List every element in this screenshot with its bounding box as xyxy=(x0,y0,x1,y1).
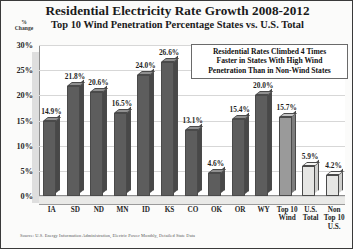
x-axis-tick-label-line: SD xyxy=(62,206,88,214)
bar[interactable]: 21.8% xyxy=(67,86,84,196)
x-axis-tick-label-line: OR xyxy=(227,206,253,214)
y-axis-tick-label: 15% xyxy=(16,116,33,125)
bar-value-label: 20.0% xyxy=(253,81,273,90)
x-axis-tick-label-line: U.S. xyxy=(321,223,347,231)
bar-front-face xyxy=(326,175,339,196)
bar-value-label: 20.6% xyxy=(88,78,108,87)
y-axis-title: % Change xyxy=(7,19,41,32)
x-axis-tick-label: ID xyxy=(133,206,159,214)
bar-side-face xyxy=(150,69,154,193)
annotation-line-1: Residential Rates Climbed 4 Times xyxy=(195,47,344,56)
bar-front-face xyxy=(43,121,56,196)
bar[interactable]: 14.9% xyxy=(43,121,60,196)
plot-side-wall xyxy=(32,52,39,203)
x-axis-tick-label: IA xyxy=(39,206,65,214)
y-axis-tick-label: 20% xyxy=(16,91,33,100)
bar-value-label: 13.1% xyxy=(182,116,202,125)
bar-front-face xyxy=(185,130,198,196)
x-axis-tick-label-line: IA xyxy=(39,206,65,214)
y-axis-tick-label: 5% xyxy=(21,166,33,175)
page-title: Residential Electricity Rate Growth 2008… xyxy=(1,4,353,18)
bar-value-label: 21.8% xyxy=(65,72,85,81)
bar-front-face xyxy=(114,113,127,196)
x-axis-tick-label: U.S.Total xyxy=(298,206,324,223)
x-axis-tick-label-line: Non xyxy=(321,206,347,214)
bar[interactable]: 24.0% xyxy=(137,75,154,196)
x-axis-tick-label: CO xyxy=(180,206,206,214)
bar-front-face xyxy=(255,95,268,196)
bar-front-face xyxy=(90,92,103,196)
plot-floor xyxy=(39,196,345,205)
y-axis-tick-label: 10% xyxy=(16,141,33,150)
x-axis-tick-label: SD xyxy=(62,206,88,214)
bar-side-face xyxy=(80,80,84,193)
bar-front-face xyxy=(67,86,80,196)
bar-value-label: 15.7% xyxy=(277,103,297,112)
bar-side-face xyxy=(103,86,107,193)
bar-value-label: 4.2% xyxy=(325,161,342,170)
bar-side-face xyxy=(245,112,249,193)
y-axis-tick-label: 25% xyxy=(16,66,33,75)
bar-front-face xyxy=(161,62,174,196)
bar-value-label: 16.5% xyxy=(112,99,132,108)
bar-side-face xyxy=(198,124,202,193)
annotation-line-2: Faster in States With High Wind xyxy=(195,56,344,65)
bar[interactable]: 15.7% xyxy=(279,117,296,196)
x-axis-tick-label-line: Wind xyxy=(274,214,300,222)
x-axis-tick-label: WY xyxy=(251,206,277,214)
bar[interactable]: 26.6% xyxy=(161,62,178,196)
bar-value-label: 14.9% xyxy=(41,107,61,116)
x-axis-tick-label: MN xyxy=(109,206,135,214)
bar-value-label: 4.6% xyxy=(208,159,225,168)
x-axis-tick-label-line: WY xyxy=(251,206,277,214)
bar-side-face xyxy=(292,111,296,193)
bar-front-face xyxy=(208,173,221,196)
title-block: Residential Electricity Rate Growth 2008… xyxy=(1,4,353,31)
annotation-line-3: Penetration Than in Non-Wind States xyxy=(195,66,344,75)
x-axis-tick-label-line: CO xyxy=(180,206,206,214)
x-axis-tick-label-line: Top 10 xyxy=(321,214,347,222)
y-axis-title-line2: Change xyxy=(7,25,41,31)
chart-subtitle: Top 10 Wind Penetration Percentage State… xyxy=(1,19,353,31)
bar-value-label: 24.0% xyxy=(135,61,155,70)
bar-side-face xyxy=(268,89,272,193)
bar[interactable]: 13.1% xyxy=(185,130,202,196)
bar[interactable]: 15.4% xyxy=(232,119,249,197)
chart-figure: Residential Electricity Rate Growth 2008… xyxy=(0,0,353,249)
x-axis-tick-label-line: ID xyxy=(133,206,159,214)
bar[interactable]: 4.2% xyxy=(326,175,343,196)
bar-side-face xyxy=(174,56,178,193)
bar-front-face xyxy=(279,117,292,196)
x-axis-tick-label: KS xyxy=(156,206,182,214)
gridline xyxy=(39,196,345,197)
x-axis-tick-label-line: OK xyxy=(204,206,230,214)
bar[interactable]: 4.6% xyxy=(208,173,225,196)
bar[interactable]: 20.0% xyxy=(255,95,272,196)
bar[interactable]: 5.9% xyxy=(302,166,319,196)
x-axis-tick-label-line: U.S. xyxy=(298,206,324,214)
annotation-callout: Residential Rates Climbed 4 Times Faster… xyxy=(191,44,348,79)
source-note: Source: U.S. Energy Information Administ… xyxy=(20,233,195,238)
bar-value-label: 5.9% xyxy=(302,152,319,161)
bar-front-face xyxy=(137,75,150,196)
x-axis-tick-label: ND xyxy=(86,206,112,214)
x-axis-tick-label-line: MN xyxy=(109,206,135,214)
bar-side-face xyxy=(56,115,60,193)
bar-value-label: 26.6% xyxy=(159,48,179,57)
x-axis-tick-label: NonTop 10U.S. xyxy=(321,206,347,231)
x-axis-tick-label-line: ND xyxy=(86,206,112,214)
x-axis-tick-label-line: Total xyxy=(298,214,324,222)
bar-front-face xyxy=(232,119,245,197)
x-axis-tick-label: OR xyxy=(227,206,253,214)
bar-value-label: 15.4% xyxy=(230,105,250,114)
bar[interactable]: 20.6% xyxy=(90,92,107,196)
y-axis-tick-label: 0% xyxy=(21,192,33,201)
x-axis-tick-label: OK xyxy=(204,206,230,214)
bar-front-face xyxy=(302,166,315,196)
x-axis-tick-label-line: KS xyxy=(156,206,182,214)
y-axis-tick-label: 30% xyxy=(16,41,33,50)
x-axis-tick-label: Top 10Wind xyxy=(274,206,300,223)
x-axis-tick-label-line: Top 10 xyxy=(274,206,300,214)
bar-side-face xyxy=(127,107,131,193)
bar[interactable]: 16.5% xyxy=(114,113,131,196)
